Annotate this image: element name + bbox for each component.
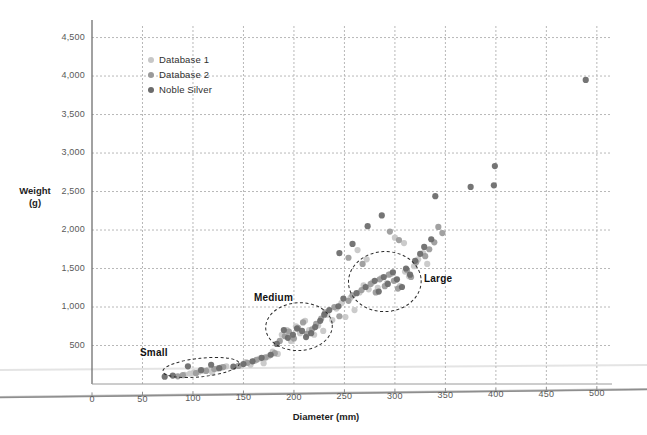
data-point [363, 284, 369, 290]
data-point [432, 193, 438, 199]
plot-canvas [0, 0, 647, 435]
data-point [261, 360, 267, 366]
y-axis-tick-label: 3,000 [30, 147, 85, 157]
data-point [268, 352, 274, 358]
y-axis-tick-label: 1,000 [30, 301, 85, 311]
data-point [435, 224, 441, 230]
data-point [399, 284, 405, 290]
y-axis-tick-label: 4,000 [30, 70, 85, 80]
data-point [394, 276, 400, 282]
data-point [428, 236, 434, 242]
data-point [326, 307, 332, 313]
x-axis-tick-label: 300 [370, 391, 420, 401]
data-point [351, 307, 357, 313]
scatter-plot-figure [0, 0, 647, 435]
chart-legend: Database 1Database 2Noble Silver [148, 52, 212, 97]
x-axis-tick-label: 200 [269, 392, 319, 402]
data-point [308, 330, 314, 336]
data-point [300, 319, 306, 325]
data-point [208, 362, 214, 368]
data-point [387, 228, 393, 234]
legend-marker-icon [148, 72, 154, 78]
data-point [491, 182, 497, 188]
y-axis-tick-label: 4,500 [30, 32, 85, 42]
data-point [290, 332, 296, 338]
legend-item-label: Database 2 [159, 69, 209, 80]
y-axis-tick-label: 500 [30, 340, 85, 350]
data-point [381, 274, 387, 280]
data-point [185, 363, 191, 369]
legend-item-noble-silver[interactable]: Noble Silver [148, 82, 212, 97]
data-point [583, 77, 589, 83]
x-axis-tick-label: 150 [218, 392, 268, 402]
x-axis-tick-label: 400 [471, 389, 521, 399]
x-axis-title: Diameter (mm) [256, 411, 396, 423]
data-point [468, 184, 474, 190]
x-axis-tick-label: 50 [117, 394, 167, 404]
cluster-label-medium: Medium [254, 292, 293, 303]
data-point [349, 241, 355, 247]
x-axis-tick-label: 450 [521, 389, 571, 399]
legend-item-database-2[interactable]: Database 2 [148, 67, 212, 82]
cluster-label-small: Small [140, 347, 168, 358]
data-point [317, 318, 323, 324]
data-point [412, 258, 418, 264]
y-axis-tick-label: 2,000 [30, 224, 85, 234]
data-point [372, 278, 378, 284]
data-point [492, 163, 498, 169]
legend-marker-icon [148, 87, 154, 93]
y-axis-tick-label: 1,500 [30, 263, 85, 273]
data-point [376, 289, 382, 295]
data-point [360, 261, 366, 267]
legend-item-label: Noble Silver [159, 84, 212, 95]
data-point [249, 358, 255, 364]
data-point [340, 295, 346, 301]
legend-item-label: Database 1 [159, 54, 209, 65]
data-point [312, 324, 318, 330]
x-axis-tick-label: 250 [319, 391, 369, 401]
data-point [216, 365, 222, 371]
data-point [379, 212, 385, 218]
data-point [303, 334, 309, 340]
data-point [170, 372, 176, 378]
data-point [353, 290, 359, 296]
data-point [162, 374, 168, 380]
data-point [336, 250, 342, 256]
data-point [365, 223, 371, 229]
data-point [299, 328, 305, 334]
x-axis-tick-label: 350 [420, 390, 470, 400]
data-point [421, 244, 427, 250]
x-axis-tick-label: 500 [572, 388, 622, 398]
data-point [407, 272, 413, 278]
data-point [281, 327, 287, 333]
legend-marker-icon [148, 57, 154, 63]
cluster-label-large: Large [424, 273, 452, 284]
data-point [385, 281, 391, 287]
y-axis-title: Weight (g) [4, 185, 66, 209]
data-point [345, 255, 351, 261]
data-point [342, 314, 348, 320]
data-point [259, 355, 265, 361]
series-noble-silver [162, 77, 589, 380]
y-axis-tick-label: 3,500 [30, 109, 85, 119]
data-point [335, 303, 341, 309]
data-point [424, 261, 430, 267]
data-point [320, 328, 326, 334]
scan-artifact-line-faint [0, 365, 647, 370]
data-point [396, 237, 402, 243]
data-point [198, 367, 204, 373]
x-axis-tick-label: 0 [67, 394, 117, 404]
series-database-2 [175, 224, 446, 380]
series-database-1 [182, 235, 431, 378]
data-point [439, 230, 445, 236]
data-point [240, 361, 246, 367]
data-point [336, 313, 342, 319]
x-axis-tick-label: 100 [168, 393, 218, 403]
data-point [354, 247, 360, 253]
data-point [417, 251, 423, 257]
data-point [403, 265, 409, 271]
legend-item-database-1[interactable]: Database 1 [148, 52, 212, 67]
data-point [390, 269, 396, 275]
